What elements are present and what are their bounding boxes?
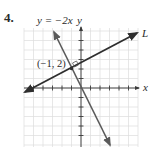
line2-label: L	[141, 27, 148, 39]
y-axis-label: y	[76, 14, 82, 26]
figure-problem-4: 4.	[0, 0, 157, 151]
x-axis-label: x	[142, 81, 148, 93]
intersection-point	[70, 67, 74, 71]
line1-label: y = −2x	[36, 14, 73, 26]
point-label: (−1, 2)	[37, 58, 66, 70]
coordinate-plane: y = −2x y L x (−1, 2)	[0, 0, 157, 151]
